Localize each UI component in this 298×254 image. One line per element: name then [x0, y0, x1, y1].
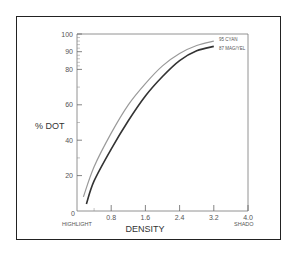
- y-tick-label: 40: [65, 137, 73, 144]
- cyan-curve: [83, 41, 213, 197]
- y-tick-label: 100: [61, 31, 73, 38]
- magyel-curve: [86, 46, 213, 204]
- plot-area-border: [77, 34, 248, 211]
- curves: [83, 41, 213, 204]
- y-tick-label: 80: [65, 66, 73, 73]
- legend-cyan: 95 CYAN: [219, 37, 237, 42]
- x-tick-label: 2.4: [175, 214, 185, 221]
- x-tick-label: 1.6: [141, 214, 151, 221]
- y-tick-label: 20: [65, 172, 73, 179]
- x-tick-label: 0.8: [106, 214, 116, 221]
- x-axis-title: DENSITY: [125, 224, 164, 234]
- y-tick-label: 60: [65, 101, 73, 108]
- x-tick-label: 3.2: [209, 214, 219, 221]
- y-axis-title: % DOT: [35, 121, 65, 131]
- highlight-label: HIGHLIGHT: [62, 221, 93, 227]
- legend-magyel: 87 MAG/YEL: [219, 46, 246, 51]
- density-dot-chart: 20406080901000.81.62.43.24.0 % DOT DENSI…: [0, 0, 298, 254]
- origin-label: 0: [71, 210, 75, 217]
- x-tick-label: 4.0: [243, 214, 253, 221]
- y-tick-label: 90: [65, 48, 73, 55]
- shadow-label: SHADO: [234, 221, 254, 227]
